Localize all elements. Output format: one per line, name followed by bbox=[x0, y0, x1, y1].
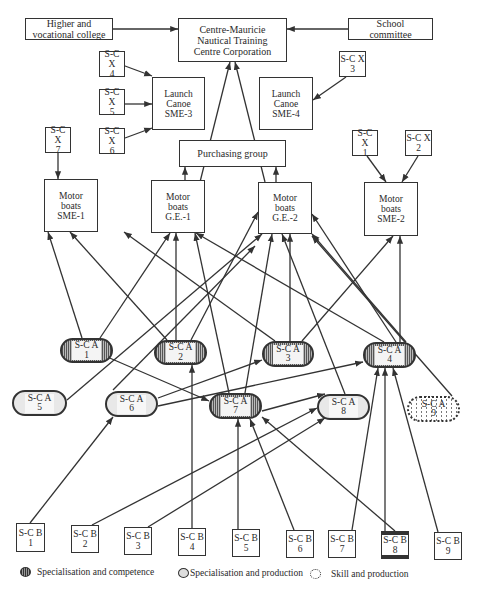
node-label-line: S-C B bbox=[73, 529, 97, 539]
node-sme2: MotorboatsSME-2 bbox=[364, 182, 418, 236]
node-label-line: 6 bbox=[100, 146, 124, 156]
node-b4: S-C B4 bbox=[178, 528, 206, 556]
legend-item-skill: Skill and production bbox=[310, 569, 409, 579]
node-a7: S-C A7 bbox=[209, 393, 262, 419]
node-x3: S-C X3 bbox=[339, 51, 366, 77]
skill-swatch-icon bbox=[310, 569, 321, 579]
node-label-line: boats bbox=[377, 204, 404, 214]
node-label-line: SME-2 bbox=[377, 214, 404, 224]
node-label-line: Launch bbox=[164, 89, 193, 99]
node-ge1: MotorboatsG.E.-1 bbox=[151, 180, 205, 233]
node-a8: S-C A8 bbox=[317, 394, 370, 420]
node-b8: S-C B8 bbox=[381, 531, 409, 559]
node-label: S-C B7 bbox=[330, 534, 354, 554]
node-b2: S-C B2 bbox=[71, 525, 99, 553]
node-label-line: S-C B bbox=[234, 533, 258, 543]
legend: Specialisation and competence Specialisa… bbox=[20, 567, 480, 585]
node-label-line: Motor bbox=[272, 193, 297, 203]
edge-arrow bbox=[48, 232, 82, 338]
node-label-line: S-C B bbox=[383, 535, 407, 545]
edge-arrow bbox=[100, 233, 170, 338]
node-label-line: 5 bbox=[234, 543, 258, 553]
node-label-line: 8 bbox=[332, 407, 356, 417]
node-label-line: S-C B bbox=[180, 532, 204, 542]
node-label: S-C X4 bbox=[100, 49, 124, 79]
node-x6: S-C X6 bbox=[99, 128, 125, 154]
node-x5: S-C X5 bbox=[99, 89, 125, 115]
edge-arrow bbox=[70, 232, 167, 340]
node-b1: S-C B1 bbox=[16, 523, 45, 552]
node-a5: S-C A5 bbox=[12, 390, 67, 416]
node-label-line: Motor bbox=[57, 191, 84, 201]
node-label-line: Nautical Training bbox=[194, 35, 271, 46]
node-a9: S-C A9 bbox=[407, 396, 460, 422]
production-swatch-icon bbox=[178, 568, 189, 578]
node-label-line: 4 bbox=[180, 542, 204, 552]
node-label-line: 1 bbox=[75, 351, 99, 361]
node-label-line: 5 bbox=[28, 403, 52, 413]
node-label: S-C A9 bbox=[419, 400, 449, 419]
node-label-line: Canoe bbox=[164, 99, 193, 109]
node-label-line: 2 bbox=[406, 143, 430, 153]
edge-arrow bbox=[312, 234, 406, 342]
node-label-line: School bbox=[369, 18, 411, 29]
node-label-line: Motor bbox=[377, 194, 404, 204]
node-label-line: vocational college bbox=[32, 29, 105, 40]
node-sme3: LaunchCanoeSME-3 bbox=[152, 77, 205, 130]
legend-item-competence: Specialisation and competence bbox=[20, 567, 154, 577]
node-label-line: S-C X bbox=[406, 133, 430, 143]
node-label-line: 2 bbox=[169, 353, 193, 363]
edge-arrow bbox=[250, 419, 294, 530]
node-label-line: Canoe bbox=[272, 99, 301, 109]
node-label-line: S-C B bbox=[330, 534, 354, 544]
edge-arrow bbox=[302, 236, 393, 341]
node-label-line: 4 bbox=[378, 355, 402, 365]
node-label-line: 3 bbox=[276, 354, 300, 364]
node-label: S-C X2 bbox=[406, 133, 430, 153]
connection-lines bbox=[0, 0, 480, 591]
edge-arrow bbox=[195, 233, 229, 393]
node-b5: S-C B5 bbox=[232, 529, 260, 557]
node-label: S-C X7 bbox=[46, 125, 70, 155]
node-a1: S-C A1 bbox=[60, 338, 113, 363]
node-label: MotorboatsSME-1 bbox=[57, 191, 84, 221]
node-label-line: Centre Corporation bbox=[194, 46, 271, 57]
node-label-line: 6 bbox=[288, 544, 312, 554]
node-label-line: 1 bbox=[353, 148, 377, 158]
node-label: S-C A2 bbox=[166, 343, 196, 362]
edge-arrow bbox=[30, 417, 113, 523]
node-label-line: boats bbox=[272, 203, 297, 213]
node-label: S-C B6 bbox=[288, 534, 312, 554]
node-label: S-C X6 bbox=[100, 126, 124, 156]
node-label: S-C A8 bbox=[329, 398, 359, 417]
node-a2: S-C A2 bbox=[154, 340, 207, 365]
node-label: S-C B1 bbox=[19, 528, 43, 548]
node-label: S-C X1 bbox=[353, 128, 377, 158]
node-label-line: SME-3 bbox=[164, 109, 193, 119]
node-label-line: 9 bbox=[436, 546, 460, 556]
legend-label: Specialisation and production bbox=[190, 568, 303, 578]
node-label: S-C X5 bbox=[100, 87, 124, 117]
node-label-line: 4 bbox=[100, 69, 124, 79]
node-school: Schoolcommittee bbox=[348, 18, 433, 40]
legend-item-production: Specialisation and production bbox=[178, 568, 303, 578]
node-label-line: Purchasing group bbox=[197, 148, 267, 159]
node-b3: S-C B3 bbox=[124, 527, 152, 555]
node-label: LaunchCanoeSME-4 bbox=[272, 89, 301, 119]
node-label-line: 7 bbox=[330, 544, 354, 554]
node-purchasing: Purchasing group bbox=[179, 140, 286, 167]
node-label-line: S-C X bbox=[340, 54, 364, 64]
edge-arrow bbox=[262, 417, 395, 531]
legend-label: Skill and production bbox=[331, 569, 409, 579]
node-label-line: S-C X bbox=[46, 125, 70, 145]
node-label-line: Motor bbox=[165, 192, 190, 202]
competence-swatch-icon bbox=[20, 567, 31, 577]
node-label: S-C A3 bbox=[273, 345, 303, 364]
node-label-line: 5 bbox=[100, 107, 124, 117]
edge-arrow bbox=[125, 128, 152, 138]
node-label-line: S-C B bbox=[436, 536, 460, 546]
node-label: S-C A7 bbox=[221, 397, 251, 416]
node-label-line: S-C B bbox=[19, 528, 43, 538]
node-label: MotorboatsG.E.-1 bbox=[165, 192, 190, 222]
edge-arrow bbox=[67, 234, 262, 400]
